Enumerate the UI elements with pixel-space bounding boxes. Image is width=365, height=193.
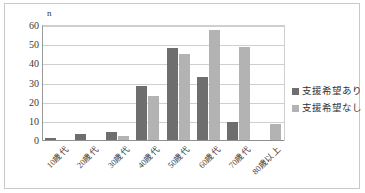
legend-swatch-icon — [292, 88, 299, 95]
x-tick-label: 50歳代 — [157, 145, 192, 180]
bar — [239, 47, 250, 140]
legend-swatch-icon — [292, 105, 299, 112]
bar-group — [225, 25, 255, 140]
bars-layer — [43, 26, 284, 141]
x-axis-tick-labels: 10歳代20歳代30歳代40歳代50歳代60歳代70歳代80歳以上 — [42, 142, 285, 192]
legend-label: 支援希望なし — [302, 103, 362, 114]
bar — [209, 30, 220, 140]
x-tick-label: 20歳代 — [66, 145, 101, 180]
bar — [136, 86, 147, 140]
bar — [148, 96, 159, 140]
x-tick-label: 80歳以上 — [248, 145, 283, 180]
x-tick-label: 10歳代 — [36, 145, 71, 180]
x-tick-label: 30歳代 — [96, 145, 131, 180]
y-tick-label: 30 — [9, 79, 39, 89]
bar — [179, 54, 190, 140]
bar — [270, 124, 281, 140]
y-tick-label: 10 — [9, 117, 39, 127]
y-tick-label: 0 — [9, 136, 39, 146]
legend-label: 支援希望あり — [302, 86, 362, 97]
bar-group — [134, 25, 164, 140]
chart-container: n 6050403020100 10歳代20歳代30歳代40歳代50歳代60歳代… — [4, 3, 360, 189]
bar — [45, 138, 56, 140]
bar — [227, 122, 238, 140]
y-tick-label: 50 — [9, 40, 39, 50]
bar-group — [104, 25, 134, 140]
y-axis-tick-labels: 6050403020100 — [7, 25, 39, 141]
y-axis-unit-label: n — [47, 8, 52, 18]
x-tick-label: 40歳代 — [127, 145, 162, 180]
bar — [197, 77, 208, 140]
y-tick-label: 40 — [9, 59, 39, 69]
x-tick-label: 60歳代 — [187, 145, 222, 180]
bar — [167, 48, 178, 140]
bar-group — [43, 25, 73, 140]
y-tick-label: 60 — [9, 21, 39, 31]
bar-group — [165, 25, 195, 140]
bar-group — [256, 25, 286, 140]
bar-group — [73, 25, 103, 140]
bar-group — [195, 25, 225, 140]
x-tick-label: 70歳代 — [218, 145, 253, 180]
bar — [75, 134, 86, 140]
bar — [106, 132, 117, 140]
chart-legend: 支援希望あり支援希望なし — [292, 83, 362, 117]
plot-area — [42, 25, 285, 141]
bar — [118, 136, 129, 140]
y-tick-label: 20 — [9, 98, 39, 108]
legend-item[interactable]: 支援希望あり — [292, 83, 362, 100]
legend-item[interactable]: 支援希望なし — [292, 100, 362, 117]
